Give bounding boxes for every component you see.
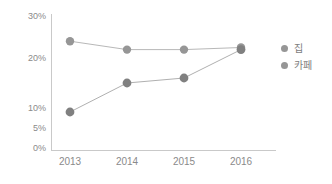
series-home-markers (66, 37, 245, 54)
legend-item-label: 집 (294, 43, 303, 55)
data-point-marker (180, 74, 189, 83)
legend-item-home[interactable]: 집 (281, 40, 331, 57)
legend-item-label: 카페 (294, 60, 312, 72)
legend-item-cafe[interactable]: 카페 (281, 57, 331, 74)
series-home-line (70, 41, 241, 49)
data-point-marker (123, 45, 131, 53)
data-point-marker (237, 45, 246, 54)
chart-legend: 집 카페 (281, 40, 331, 74)
data-point-marker (180, 45, 188, 53)
data-point-marker (66, 37, 74, 45)
series-cafe-line (70, 50, 241, 112)
line-chart-screenshot: 30% 20% 10% 5% 0% 2013 2014 2015 2016 집 (0, 0, 332, 184)
chart-plot-area (0, 0, 332, 184)
data-point-marker (66, 108, 75, 117)
data-point-marker (123, 79, 132, 88)
series-cafe-group (66, 45, 246, 116)
legend-marker-dot-icon (281, 62, 288, 69)
series-home-group (66, 37, 245, 54)
legend-marker-dot-icon (281, 45, 288, 52)
